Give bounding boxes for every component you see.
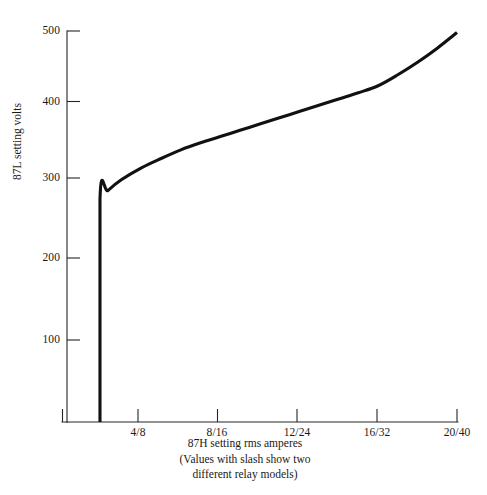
x-axis-note-line-2: different relay models)	[100, 467, 390, 483]
x-axis-ticks	[63, 409, 458, 422]
x-axis-label: 87H setting rms amperes	[100, 436, 390, 452]
chart-figure: 500 400 300 200 100 4/8 8/16 12/24 16/32…	[0, 0, 487, 495]
x-axis-label-block: 87H setting rms amperes (Values with sla…	[100, 436, 390, 483]
y-axis-label: 87L setting volts	[11, 70, 23, 180]
y-tick-label-200: 200	[16, 251, 60, 263]
x-axis-note-line-1: (Values with slash show two	[100, 452, 390, 468]
chart-plot-area	[0, 0, 487, 495]
y-tick-label-100: 100	[16, 333, 60, 345]
y-tick-label-500: 500	[16, 24, 60, 36]
data-curve	[100, 33, 457, 422]
y-axis-ticks	[67, 31, 80, 340]
x-tick-label-20-40: 20/40	[427, 426, 487, 438]
